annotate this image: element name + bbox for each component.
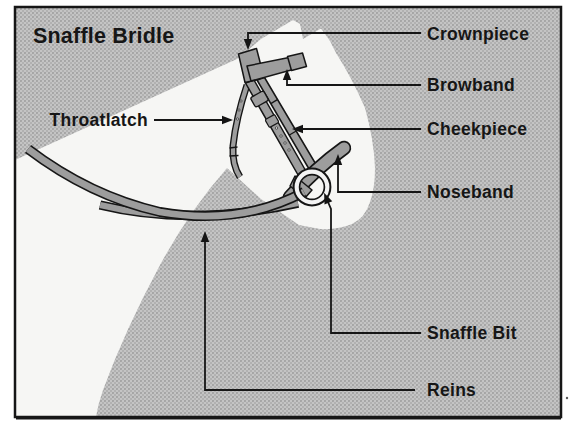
diagram-canvas: Snaffle Bridle Crownpiece Browband Throa… — [0, 0, 580, 435]
strap-hole — [280, 135, 282, 137]
label-crownpiece: Crownpiece — [427, 24, 529, 44]
strap-hole — [275, 127, 277, 129]
label-snaffle-bit: Snaffle Bit — [427, 323, 517, 343]
strap-hole — [288, 149, 290, 151]
label-cheekpiece: Cheekpiece — [427, 119, 527, 139]
strap-keeper — [230, 156, 239, 157]
label-browband: Browband — [427, 75, 515, 95]
strap-hole — [284, 142, 286, 144]
label-throatlatch: Throatlatch — [49, 110, 148, 130]
strap-hole — [240, 100, 242, 102]
diagram-title: Snaffle Bridle — [33, 24, 174, 48]
browband-end-tab — [288, 53, 307, 71]
print-speck — [566, 397, 568, 399]
label-reins: Reins — [427, 380, 476, 400]
snaffle-bridle-diagram: Snaffle Bridle Crownpiece Browband Throa… — [0, 0, 580, 435]
label-noseband: Noseband — [427, 182, 514, 202]
strap-hole — [238, 109, 240, 111]
strap-hole — [236, 118, 238, 120]
